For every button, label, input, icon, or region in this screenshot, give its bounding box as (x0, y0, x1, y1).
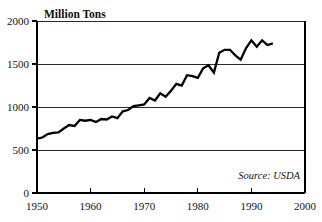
chart-background (0, 0, 322, 222)
x-tick-label-2000: 2000 (294, 200, 317, 212)
x-tick-label-1970: 1970 (133, 200, 156, 212)
y-tick-label-0: 0 (24, 187, 30, 199)
x-tick-label-1990: 1990 (240, 200, 263, 212)
y-tick-label-1500: 1500 (7, 58, 30, 70)
chart-title: Million Tons (44, 8, 106, 20)
y-tick-label-1000: 1000 (7, 101, 30, 113)
x-tick-label-1980: 1980 (187, 200, 210, 212)
y-tick-label-2000: 2000 (7, 15, 30, 27)
y-tick-label-500: 500 (13, 144, 30, 156)
x-tick-label-1950: 1950 (26, 200, 49, 212)
source-annotation: Source: USDA (238, 170, 300, 181)
chart-figure: 0500100015002000 19501960197019801990200… (0, 0, 322, 222)
line-chart: 0500100015002000 19501960197019801990200… (0, 0, 322, 222)
x-tick-label-1960: 1960 (80, 200, 103, 212)
